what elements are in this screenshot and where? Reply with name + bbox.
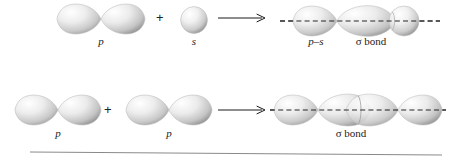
p-s-product-label: p–s (294, 36, 338, 47)
p-orbital-row2-second (126, 93, 212, 127)
p-orbital-row1 (57, 2, 145, 36)
p-orbital-row2-first (15, 93, 101, 127)
s-orbital-row1 (180, 6, 208, 34)
sigma-bond-label-row1: σ bond (338, 36, 404, 47)
s-orbital-row1-label: s (174, 36, 214, 47)
sigma-bond-label-row2: σ bond (318, 128, 384, 139)
plus-sign-row2: + (104, 103, 112, 116)
orbital-overlap-figure: p + s p–s σ bond p (0, 0, 449, 166)
reaction-arrow-row2 (218, 105, 266, 115)
p-orbital-row1-label: p (81, 36, 121, 47)
plus-sign-row1: + (156, 11, 164, 24)
footer-rule (30, 151, 442, 155)
reaction-arrow-row1 (218, 13, 266, 23)
p-p-overlap-product (270, 92, 446, 128)
p-orbital-row2-first-label: p (38, 128, 78, 139)
p-orbital-row2-second-label: p (149, 128, 189, 139)
p-s-overlap-product (280, 2, 440, 38)
